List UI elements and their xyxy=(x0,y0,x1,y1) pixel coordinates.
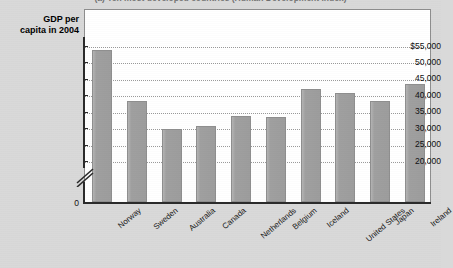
y-tick-mark xyxy=(85,46,88,47)
y-tick-label: 25,000 xyxy=(363,140,441,149)
x-tick-label: Norway xyxy=(117,206,144,230)
panel-title: (a) Ten most developed countries (Human … xyxy=(0,0,441,3)
x-tick-label: Sweden xyxy=(152,206,180,231)
y-tick-label: 50,000 xyxy=(363,58,441,67)
bar xyxy=(266,117,286,202)
bar xyxy=(231,116,251,202)
bar xyxy=(301,89,321,202)
y-tick-mark xyxy=(85,112,88,113)
y-tick-mark xyxy=(85,145,88,146)
bar xyxy=(127,101,147,202)
x-tick-label: Australia xyxy=(187,206,217,233)
bar xyxy=(196,126,216,203)
y-tick-label: 40,000 xyxy=(363,91,441,100)
x-tick-label: Iceland xyxy=(325,206,351,229)
y-tick-mark xyxy=(85,95,88,96)
y-tick-label: 20,000 xyxy=(363,157,441,166)
bar xyxy=(162,129,182,202)
y-tick-label: 30,000 xyxy=(363,124,441,133)
x-tick-label: Ireland xyxy=(428,206,453,229)
y-tick-label: 0 xyxy=(0,198,79,208)
y-axis-title-line2: capita in 2004 xyxy=(0,25,79,36)
y-tick-label: 45,000 xyxy=(363,74,441,83)
y-axis-spine xyxy=(83,37,85,168)
y-tick-mark xyxy=(85,161,88,162)
panel-title-strip: (a) Ten most developed countries (Human … xyxy=(0,0,441,9)
y-axis-title-line1: GDP per xyxy=(0,14,79,25)
x-axis-spine xyxy=(83,202,431,204)
axis-break-icon xyxy=(74,163,96,187)
y-axis-title: GDP per capita in 2004 xyxy=(0,14,79,35)
bar xyxy=(335,93,355,202)
x-tick-label: Canada xyxy=(221,206,248,231)
y-tick-mark xyxy=(85,79,88,80)
y-tick-label: 35,000 xyxy=(363,107,441,116)
y-tick-mark xyxy=(85,128,88,129)
y-tick-mark xyxy=(85,62,88,63)
y-tick-label: $55,000 xyxy=(363,42,441,51)
